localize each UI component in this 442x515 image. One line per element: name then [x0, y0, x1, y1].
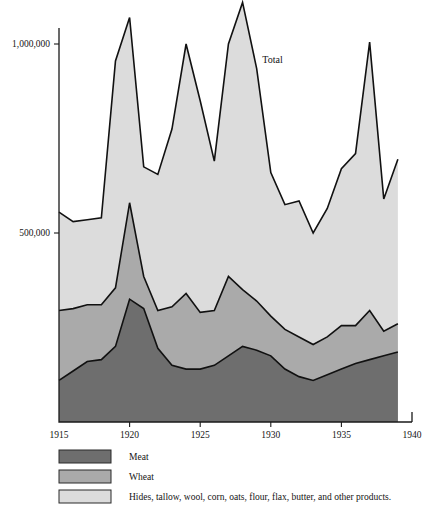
y-tick-label: 1,000,000 [12, 39, 50, 49]
chart-canvas: 500,0001,000,000 19151920192519301935194… [0, 0, 442, 515]
x-tick-label: 1940 [403, 430, 422, 440]
x-tick-label: 1935 [332, 430, 351, 440]
x-tick-label: 1930 [261, 430, 280, 440]
x-axis-tick-labels: 191519201925193019351940 [50, 430, 422, 440]
area-chart-figure: 500,0001,000,000 19151920192519301935194… [0, 0, 442, 515]
chart-annotations: Total [262, 54, 283, 65]
x-tick-label: 1925 [191, 430, 210, 440]
x-tick-label: 1915 [50, 430, 69, 440]
annotation-total-label: Total [262, 54, 283, 65]
x-tick-label: 1920 [120, 430, 139, 440]
y-axis-tick-labels: 500,0001,000,000 [12, 39, 50, 238]
stacked-area-bands [59, 2, 398, 422]
y-tick-label: 500,000 [19, 228, 50, 238]
